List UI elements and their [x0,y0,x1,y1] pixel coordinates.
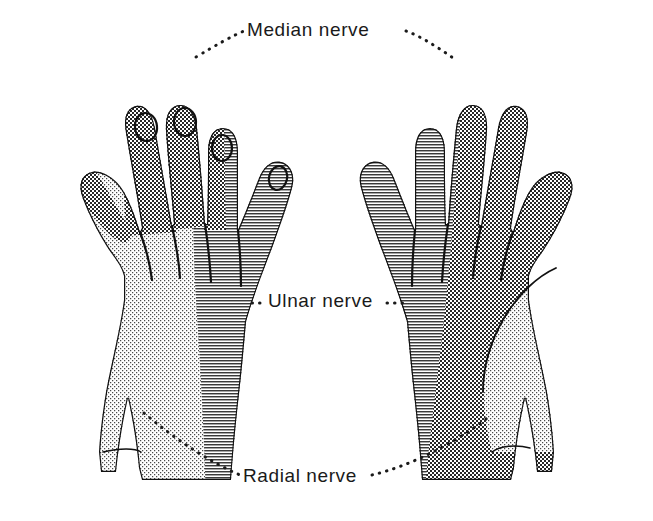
right-hand-palm [323,0,653,521]
label-median-nerve: Median nerve [247,19,369,41]
left-median-ring-radial [203,120,226,230]
nerve-supply-figure: Median nerve Ulnar nerve Radial nerve [0,0,653,521]
scan-edge-artifact [0,508,653,521]
label-radial-nerve: Radial nerve [243,465,357,487]
label-ulnar-nerve: Ulnar nerve [268,290,373,312]
left-hand-dorsum [0,0,330,521]
leader-median-right [406,31,456,60]
leader-median-left [196,31,244,57]
hands-diagram [0,0,653,521]
